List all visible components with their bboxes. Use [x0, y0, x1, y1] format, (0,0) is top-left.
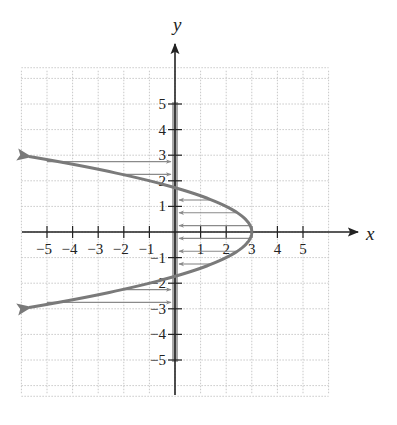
coordinate-plane: −5−4−3−2−112345−5−4−3−2−112345 x y: [0, 0, 397, 425]
x-tick-label: −2: [113, 241, 129, 257]
y-tick-label: 4: [159, 122, 167, 138]
x-tick-label: 5: [299, 241, 307, 257]
y-tick-label: 1: [159, 198, 167, 214]
y-tick-label: 5: [159, 96, 167, 112]
x-tick-label: 1: [197, 241, 205, 257]
axes: [22, 44, 358, 395]
y-tick-label: −1: [150, 250, 166, 266]
parabola-figure: −5−4−3−2−112345−5−4−3−2−112345 x y: [0, 0, 397, 425]
y-axis-label: y: [171, 14, 182, 35]
x-tick-label: −5: [36, 241, 52, 257]
x-tick-label: 3: [248, 241, 256, 257]
y-tick-label: −4: [150, 326, 166, 342]
x-tick-label: 4: [274, 241, 282, 257]
y-tick-label: −3: [150, 301, 166, 317]
y-tick-label: 2: [159, 173, 167, 189]
x-axis-label: x: [365, 223, 375, 244]
y-tick-label: 3: [159, 147, 167, 163]
y-tick-label: −5: [150, 352, 166, 368]
x-tick-label: −3: [87, 241, 103, 257]
x-tick-label: −4: [62, 241, 78, 257]
